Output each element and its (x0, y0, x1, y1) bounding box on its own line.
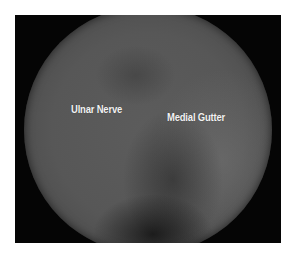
ulnar-nerve-label: Ulnar Nerve (71, 103, 122, 115)
medial-gutter-label: Medial Gutter (167, 111, 225, 123)
arthroscopic-circular-view (24, 15, 272, 243)
arthroscopic-image-frame (15, 15, 281, 243)
